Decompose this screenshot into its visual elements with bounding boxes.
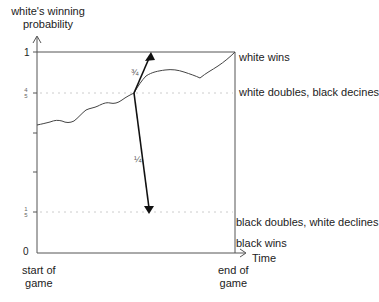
tick-label-zero: 0 bbox=[23, 245, 29, 258]
arrow-down-line bbox=[134, 93, 149, 208]
arrow-down-head-icon bbox=[144, 206, 154, 214]
up-probability-label: ¾ bbox=[131, 66, 139, 79]
end-label-line2: game bbox=[218, 277, 249, 290]
tick-label-one: 1 bbox=[24, 46, 30, 59]
down-probability-label: ¼ bbox=[134, 153, 142, 166]
outcome-white-doubles: white doubles, black decines bbox=[239, 86, 379, 99]
y-axis-title-line1: white's winning bbox=[4, 5, 92, 18]
y-axis-title: white's winning probability bbox=[4, 5, 92, 31]
outcome-white-wins: white wins bbox=[239, 51, 290, 64]
arrow-up-head-icon bbox=[145, 52, 155, 61]
end-label-line1: end of bbox=[218, 264, 249, 277]
outcome-black-doubles: black doubles, white declines bbox=[236, 216, 378, 229]
x-axis-title: Time bbox=[252, 252, 276, 265]
start-of-game-label: start of game bbox=[22, 264, 56, 290]
four-fifths-denominator: 5 bbox=[22, 93, 30, 99]
y-axis-title-line2: probability bbox=[4, 18, 92, 31]
one-fifth-denominator: 5 bbox=[22, 212, 30, 218]
tick-label-one-fifth: 1 5 bbox=[22, 206, 30, 218]
start-label-line2: game bbox=[22, 277, 56, 290]
start-label-line1: start of bbox=[22, 264, 56, 277]
outcome-black-wins: black wins bbox=[236, 237, 287, 250]
tick-label-four-fifths: 4 5 bbox=[22, 87, 30, 99]
end-of-game-label: end of game bbox=[218, 264, 249, 290]
